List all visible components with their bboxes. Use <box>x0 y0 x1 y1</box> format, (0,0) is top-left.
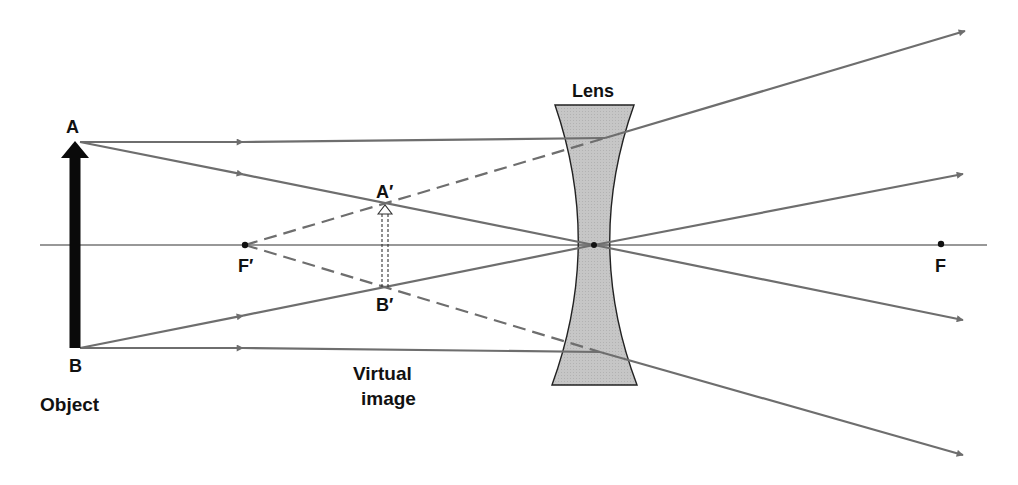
focal-point-f-prime <box>242 242 248 248</box>
lens-center-point <box>591 242 597 248</box>
ray-chief-from-a <box>80 142 963 320</box>
virtual-extension-bottom <box>245 245 600 352</box>
ray-parallel-bottom <box>80 348 963 455</box>
virtual-image-arrow <box>378 205 392 287</box>
object-top-label: A <box>66 117 79 137</box>
virtual-extension-top <box>245 138 605 245</box>
ray-parallel-top <box>80 31 965 142</box>
virtual-image-caption-line2: image <box>361 388 416 409</box>
focal-right-label: F <box>935 256 946 276</box>
ray-chief-from-b <box>80 174 963 348</box>
image-bottom-label: B′ <box>376 295 393 315</box>
virtual-image-caption-line1: Virtual <box>353 363 412 384</box>
diverging-lens-ray-diagram: Lens A B A′ B′ F′ F Object Virtual image <box>0 0 1018 485</box>
object-caption: Object <box>40 394 100 415</box>
object-bottom-label: B <box>69 356 82 376</box>
lens-label: Lens <box>572 81 614 101</box>
focal-left-label: F′ <box>238 256 253 276</box>
focal-point-f <box>938 241 944 247</box>
image-top-label: A′ <box>376 182 393 202</box>
